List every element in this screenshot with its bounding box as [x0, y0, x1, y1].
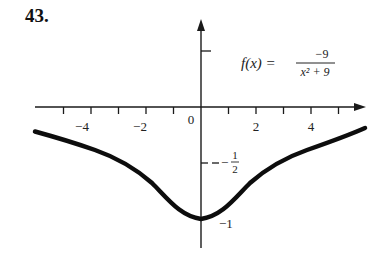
x-tick-label: 2: [253, 119, 260, 134]
y-tick-label-minus-one: −1: [219, 216, 233, 231]
x-tick-label: 4: [308, 119, 315, 134]
formula-denominator: x² + 9: [299, 65, 329, 79]
function-formula: f(x) = −9 x² + 9: [241, 47, 335, 79]
x-tick-label: −2: [133, 119, 147, 134]
function-curve: [35, 128, 365, 219]
formula-numerator: −9: [316, 47, 329, 61]
x-axis-arrow-icon: [354, 103, 366, 111]
y-tick-label-half-num: 1: [232, 149, 238, 161]
y-tick-label-half-den: 2: [232, 163, 238, 175]
x-tick-label: −4: [75, 119, 89, 134]
formula-lhs: f(x) =: [241, 55, 276, 72]
x-tick-label: 0: [188, 112, 195, 127]
y-axis-arrow-icon: [197, 19, 205, 31]
y-tick-label-sign: −: [221, 155, 228, 170]
function-graph: −4 −2 0 2 4 − 1 2 −1 f(x) = −9 x² + 9: [0, 0, 382, 269]
